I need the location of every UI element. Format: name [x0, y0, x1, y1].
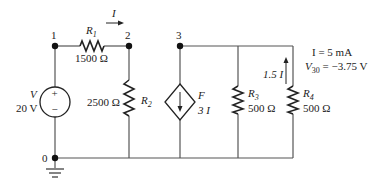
r3-name: R3 — [247, 87, 259, 102]
r4-name: R4 — [302, 87, 314, 102]
arrow-up-icon — [284, 57, 289, 84]
v-name: V — [30, 88, 38, 100]
resistor-r2-icon — [124, 80, 134, 116]
r4-current-label: 1.5 I — [263, 68, 285, 80]
resistor-r1-icon — [80, 41, 104, 51]
node-2-dot — [126, 43, 132, 49]
node-3-dot — [177, 43, 183, 49]
node-0-dot — [52, 155, 58, 161]
r1-name: R1 — [85, 24, 97, 39]
node-3-label: 3 — [176, 29, 182, 41]
r2-value: 2500 Ω — [87, 96, 120, 108]
node-0-label: 0 — [42, 152, 48, 164]
arrow-right-icon — [106, 21, 124, 26]
node-2-label: 2 — [125, 29, 131, 41]
v-value: 20 V — [16, 102, 38, 114]
f-value: 3 I — [197, 104, 211, 116]
r2-name: R2 — [140, 94, 152, 109]
ground-icon — [46, 169, 64, 177]
v-minus: − — [52, 103, 58, 115]
r3-value: 500 Ω — [248, 102, 275, 114]
current-i-label: I — [111, 7, 117, 19]
f-name: F — [197, 89, 205, 101]
resistor-r3-icon — [233, 86, 243, 114]
node-1-dot — [52, 43, 58, 49]
given-current: I = 5 mA — [312, 46, 352, 58]
r4-value: 500 Ω — [303, 102, 330, 114]
v-plus: + — [52, 87, 58, 99]
r1-value: 1500 Ω — [75, 52, 108, 64]
resistor-r4-icon — [288, 86, 298, 114]
given-voltage: V30 = −3.75 V — [305, 60, 367, 75]
node-1-label: 1 — [51, 29, 57, 41]
circuit-diagram: 1 2 3 0 R1 1500 Ω I R2 2500 Ω + − V 20 V… — [0, 0, 376, 191]
